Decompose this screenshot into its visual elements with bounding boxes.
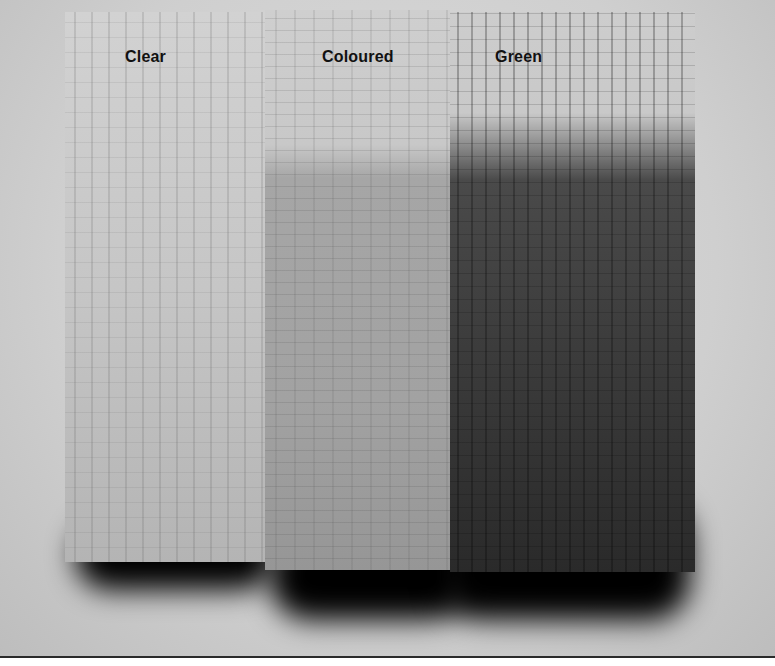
bottom-margin	[0, 658, 775, 666]
wood-grain	[450, 12, 695, 572]
label-coloured: Coloured	[322, 48, 394, 66]
wood-grain	[65, 12, 265, 562]
photograph: Clear Coloured Green	[0, 0, 775, 657]
board-green: Green	[450, 12, 695, 572]
label-clear: Clear	[125, 48, 166, 66]
board-clear: Clear	[65, 12, 265, 562]
wood-grain	[265, 10, 450, 570]
board-coloured: Coloured	[265, 10, 450, 570]
label-green: Green	[495, 48, 542, 66]
